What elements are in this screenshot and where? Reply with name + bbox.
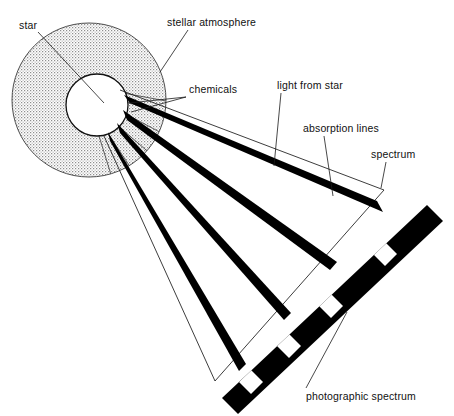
label-light-from-star: light from star [277, 79, 343, 91]
label-absorption-lines: absorption lines [303, 122, 379, 134]
diagram-root: star stellar atmosphere chemicals light … [0, 0, 454, 416]
label-star: star [19, 19, 37, 31]
label-stellar-atmosphere: stellar atmosphere [167, 16, 256, 28]
label-chemicals: chemicals [189, 83, 237, 95]
label-spectrum: spectrum [371, 148, 415, 160]
label-photographic-spectrum: photographic spectrum [306, 390, 416, 402]
stellar-spectrum-diagram: star stellar atmosphere chemicals light … [0, 0, 454, 416]
